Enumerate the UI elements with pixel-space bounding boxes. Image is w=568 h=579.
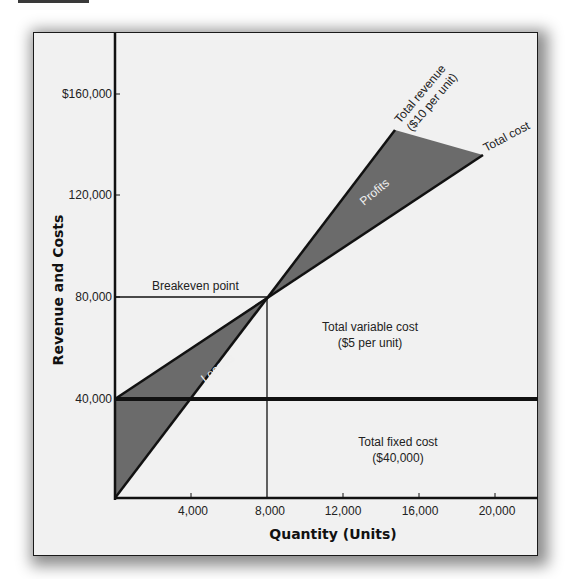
breakeven-chart: $160,000 120,000 80,000 40,000 4,000 8,0… (0, 0, 568, 579)
breakeven-label: Breakeven point (152, 279, 239, 293)
variable-cost-label: Total variable cost (322, 320, 419, 334)
fixed-cost-label: Total fixed cost (358, 435, 438, 449)
fixed-cost-sublabel: ($40,000) (372, 451, 423, 465)
x-axis-title: Quantity (Units) (269, 526, 396, 542)
y-tick-label: 120,000 (69, 188, 113, 202)
y-tick-label: 80,000 (75, 290, 112, 304)
y-axis-title: Revenue and Costs (50, 215, 66, 366)
y-tick-label: 40,000 (75, 392, 112, 406)
variable-cost-sublabel: ($5 per unit) (338, 336, 403, 350)
x-tick-label: 20,000 (479, 504, 516, 518)
total-revenue-line (115, 130, 395, 498)
total-cost-line (115, 155, 483, 399)
x-tick-label: 8,000 (255, 504, 285, 518)
x-tick-label: 12,000 (325, 504, 362, 518)
total-cost-label: Total cost (481, 118, 533, 154)
y-tick-label: $160,000 (62, 87, 112, 101)
x-tick-label: 4,000 (178, 504, 208, 518)
x-tick-label: 16,000 (402, 504, 439, 518)
